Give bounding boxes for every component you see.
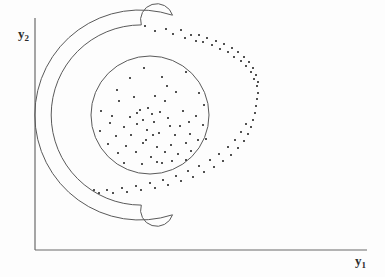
data-point	[135, 151, 137, 153]
data-point	[202, 41, 204, 43]
data-point	[185, 159, 187, 161]
data-point	[243, 140, 245, 142]
data-point	[219, 48, 221, 50]
data-point	[230, 154, 232, 156]
data-point	[233, 56, 235, 58]
data-point	[164, 100, 166, 102]
data-point	[93, 189, 95, 191]
data-point	[202, 124, 204, 126]
data-point	[243, 56, 245, 58]
data-point	[167, 184, 169, 186]
data-point	[165, 28, 167, 30]
scatter-plot-figure: y2 y1	[0, 0, 385, 277]
data-point	[254, 112, 256, 114]
data-point	[198, 34, 200, 36]
data-point	[185, 71, 187, 73]
data-point	[123, 162, 125, 164]
data-point	[227, 146, 229, 148]
data-point	[142, 142, 144, 144]
data-point	[129, 116, 131, 118]
data-point	[180, 29, 182, 31]
data-point	[198, 92, 200, 94]
data-point	[187, 170, 189, 172]
data-point	[152, 134, 154, 136]
data-point	[237, 51, 239, 53]
data-point	[107, 143, 109, 145]
series-cluster-1-disk	[99, 67, 207, 165]
data-point	[109, 122, 111, 124]
data-points-group	[93, 25, 259, 194]
data-point	[250, 126, 252, 128]
data-point	[121, 187, 123, 189]
data-point	[175, 91, 177, 93]
data-point	[140, 189, 142, 191]
data-point	[158, 132, 160, 134]
data-point	[139, 109, 141, 111]
data-point	[136, 123, 138, 125]
data-point	[197, 139, 199, 141]
data-point	[126, 191, 128, 193]
data-point	[234, 139, 236, 141]
data-point	[116, 89, 118, 91]
data-point	[218, 153, 220, 155]
data-point	[123, 126, 125, 128]
crescent-boundary	[35, 4, 173, 227]
data-point	[209, 159, 211, 161]
y-axis-label-subscript: 2	[25, 33, 30, 43]
data-point	[257, 92, 259, 94]
data-point	[223, 43, 225, 45]
data-point	[145, 139, 147, 141]
data-point	[174, 134, 176, 136]
data-point	[159, 111, 161, 113]
data-point	[231, 47, 233, 49]
data-point	[179, 125, 181, 127]
data-point	[175, 175, 177, 177]
data-point	[252, 67, 254, 69]
data-point	[141, 163, 143, 165]
data-point	[129, 77, 131, 79]
data-point	[256, 85, 258, 87]
data-point	[203, 104, 205, 106]
data-point	[189, 133, 191, 135]
data-point	[142, 119, 144, 121]
data-point	[222, 160, 224, 162]
data-point	[206, 37, 208, 39]
data-point	[182, 110, 184, 112]
data-point	[156, 161, 158, 163]
data-point	[161, 162, 163, 164]
data-point	[167, 117, 169, 119]
plot-canvas	[0, 0, 385, 277]
data-point	[151, 113, 153, 115]
data-point	[255, 74, 257, 76]
data-point	[257, 81, 259, 83]
data-point	[245, 123, 247, 125]
data-point	[253, 78, 255, 80]
data-point	[185, 142, 187, 144]
data-point	[153, 121, 155, 123]
data-point	[166, 85, 168, 87]
series-cluster-2-crescent	[93, 25, 259, 194]
data-point	[192, 176, 194, 178]
data-point	[252, 119, 254, 121]
data-point	[203, 171, 205, 173]
data-point	[118, 100, 120, 102]
data-point	[172, 33, 174, 35]
data-point	[117, 152, 119, 154]
data-point	[135, 185, 137, 187]
data-point	[177, 153, 179, 155]
data-point	[136, 112, 138, 114]
data-point	[146, 129, 148, 131]
x-axis-label-subscript: 1	[362, 260, 367, 270]
data-point	[237, 147, 239, 149]
data-point	[171, 160, 173, 162]
data-point	[125, 145, 127, 147]
data-point	[195, 40, 197, 42]
data-point	[195, 115, 197, 117]
data-point	[111, 115, 113, 117]
data-point	[240, 60, 242, 62]
data-point	[247, 133, 249, 135]
data-point	[106, 189, 108, 191]
data-point	[169, 125, 171, 127]
data-point	[99, 130, 101, 132]
cluster-boundaries-group	[35, 4, 209, 227]
